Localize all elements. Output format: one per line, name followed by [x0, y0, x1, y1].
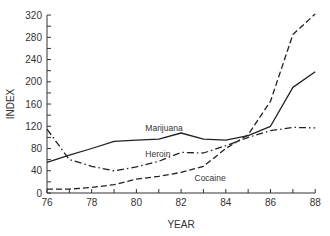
- y-tick-label: 200: [25, 76, 42, 87]
- y-tick-label: 80: [31, 143, 43, 154]
- y-tick-label: 120: [25, 121, 42, 132]
- axes: 7678808284868804080120160200240280320: [25, 10, 321, 208]
- series-line-marijuana: [47, 72, 315, 163]
- x-tick-label: 86: [265, 197, 277, 208]
- x-tick-label: 80: [131, 197, 143, 208]
- y-tick-label: 160: [25, 99, 42, 110]
- x-tick-label: 82: [176, 197, 188, 208]
- y-tick-label: 0: [36, 188, 42, 199]
- y-tick-label: 240: [25, 54, 42, 65]
- series-line-heroin: [47, 127, 315, 170]
- x-tick-label: 88: [310, 197, 322, 208]
- y-tick-label: 40: [31, 165, 43, 176]
- x-tick-label: 76: [41, 197, 53, 208]
- y-axis-title: INDEX: [5, 88, 16, 119]
- y-tick-label: 280: [25, 32, 42, 43]
- series-label-marijuana: Marijuana: [145, 123, 183, 133]
- chart-canvas: 7678808284868804080120160200240280320 Ma…: [0, 0, 330, 236]
- x-tick-label: 84: [220, 197, 232, 208]
- x-tick-label: 78: [86, 197, 98, 208]
- y-tick-label: 320: [25, 10, 42, 21]
- series-label-heroin: Heroin: [145, 149, 170, 159]
- x-axis-title: YEAR: [167, 219, 194, 230]
- series-lines: [47, 14, 315, 189]
- line-chart: 7678808284868804080120160200240280320 Ma…: [0, 0, 330, 236]
- series-labels: MarijuanaHeroinCocaine: [145, 123, 226, 183]
- series-line-cocaine: [47, 14, 315, 189]
- series-label-cocaine: Cocaine: [195, 173, 226, 183]
